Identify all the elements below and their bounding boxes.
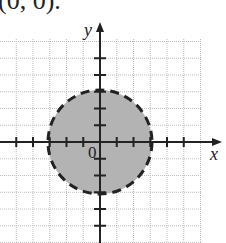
coordinate-plane [0, 0, 226, 243]
y-axis-label: y [84, 20, 92, 41]
origin-label: 0 [88, 143, 97, 163]
x-axis-label: x [210, 144, 218, 165]
y-axis-arrow-icon [96, 22, 104, 32]
